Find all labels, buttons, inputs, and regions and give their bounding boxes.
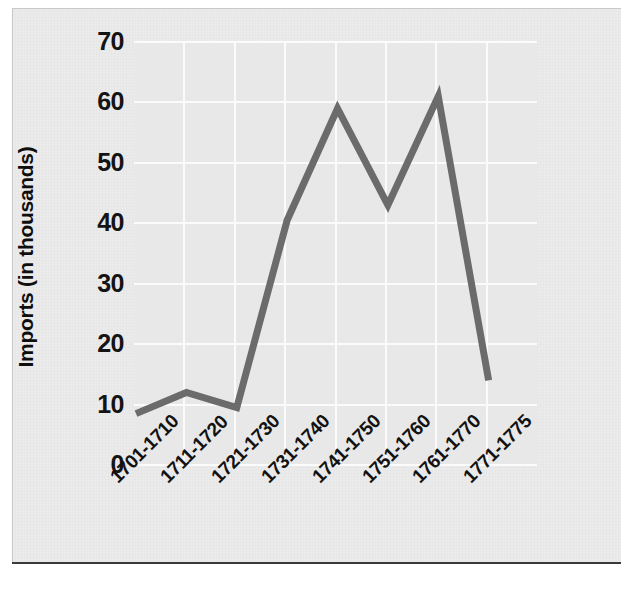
bottom-horizontal-rule <box>12 562 621 564</box>
chart-figure: 010203040506070 Imports (in thousands) 1… <box>0 0 621 589</box>
x-axis-tick-labels: 1701-17101711-17201721-17301731-17401741… <box>0 0 621 589</box>
